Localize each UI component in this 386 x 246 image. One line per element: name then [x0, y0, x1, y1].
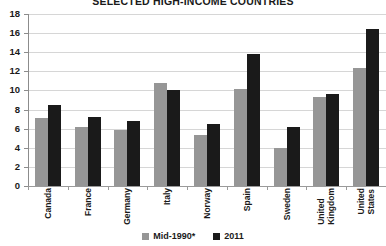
- bar-group: [108, 14, 148, 186]
- x-axis-category-labels: CanadaFranceGermanyItalyNorwaySpainSwede…: [28, 187, 386, 227]
- y-axis-tick-label: 6: [15, 124, 20, 134]
- bar: [234, 89, 247, 186]
- x-axis-category-label: United: [357, 188, 366, 214]
- bar: [313, 97, 326, 186]
- x-axis-category-label: Sweden: [282, 188, 291, 220]
- bar-group: [68, 14, 108, 186]
- bar: [207, 124, 220, 186]
- bar: [287, 127, 300, 186]
- bar: [114, 130, 127, 186]
- y-axis-tick-label: 2: [15, 162, 20, 172]
- bar: [194, 135, 207, 186]
- x-axis-category-label: Canada: [44, 188, 53, 219]
- x-axis-category: Canada: [28, 187, 68, 227]
- x-axis-category-label: Italy: [163, 188, 172, 205]
- y-axis-tick-label: 16: [9, 28, 20, 38]
- y-axis-tick-label: 12: [9, 67, 20, 77]
- x-axis-category: France: [68, 187, 108, 227]
- bar-group: [187, 14, 227, 186]
- bar: [247, 54, 260, 186]
- chart-title: SELECTED HIGH-INCOME COUNTRIES: [0, 0, 386, 9]
- x-axis-category: Germany: [108, 187, 148, 227]
- bar: [154, 83, 167, 186]
- y-axis-tick-labels: 024681012141618: [0, 14, 26, 186]
- x-axis-tick: [306, 187, 307, 190]
- bars-layer: [28, 14, 386, 186]
- x-axis-category-label: United: [317, 188, 326, 225]
- bar: [274, 148, 287, 186]
- bar: [353, 68, 366, 186]
- x-axis-category-label: Germany: [123, 188, 132, 225]
- x-axis-category-label: States: [367, 188, 376, 214]
- bar-group: [346, 14, 386, 186]
- legend-item: 2011: [213, 232, 244, 241]
- x-axis-tick: [346, 187, 347, 190]
- bar-group: [147, 14, 187, 186]
- x-axis-tick: [108, 187, 109, 190]
- bar: [167, 90, 180, 187]
- bar: [366, 29, 379, 186]
- y-axis-tick-label: 14: [9, 47, 20, 57]
- legend-item: Mid-1990*: [142, 232, 195, 241]
- bar: [127, 121, 140, 186]
- x-axis-category-label: Norway: [203, 188, 212, 219]
- y-axis-tick-label: 0: [15, 181, 20, 191]
- bar-group: [267, 14, 307, 186]
- legend-label: Mid-1990*: [153, 232, 195, 241]
- x-axis-category-label: Kingdom: [327, 188, 336, 225]
- x-axis-category-label: Spain: [243, 188, 252, 211]
- bar-group: [28, 14, 68, 186]
- y-axis-tick-label: 18: [9, 9, 20, 19]
- x-axis-category-label: France: [83, 188, 92, 216]
- bar: [326, 94, 339, 186]
- x-axis-tick: [28, 187, 29, 190]
- x-axis-category: Italy: [147, 187, 187, 227]
- bar: [35, 118, 48, 186]
- bar-chart: SELECTED HIGH-INCOME COUNTRIES 024681012…: [0, 0, 386, 246]
- x-axis-tick: [187, 187, 188, 190]
- bar: [88, 117, 101, 186]
- legend-swatch: [213, 233, 220, 240]
- y-axis-tick-label: 4: [15, 143, 20, 153]
- bar-group: [227, 14, 267, 186]
- y-axis-tick-label: 10: [9, 86, 20, 96]
- bar: [75, 127, 88, 186]
- legend-swatch: [142, 233, 149, 240]
- plot-area: [28, 14, 386, 186]
- x-axis-tick: [227, 187, 228, 190]
- x-axis-category: Norway: [187, 187, 227, 227]
- x-axis-category: UnitedStates: [346, 187, 386, 227]
- chart-legend: Mid-1990*2011: [0, 229, 386, 243]
- x-axis-category: UnitedKingdom: [306, 187, 346, 227]
- x-axis-category: Sweden: [267, 187, 307, 227]
- x-axis-tick: [267, 187, 268, 190]
- bar: [48, 105, 61, 186]
- x-axis-tick: [68, 187, 69, 190]
- bar-group: [306, 14, 346, 186]
- x-axis-category: Spain: [227, 187, 267, 227]
- x-axis-tick: [147, 187, 148, 190]
- legend-label: 2011: [224, 232, 244, 241]
- y-axis-tick-label: 8: [15, 105, 20, 115]
